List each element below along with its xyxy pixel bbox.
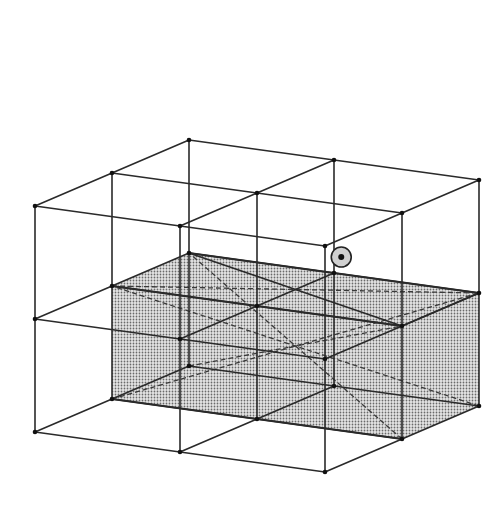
lattice-vertex	[187, 138, 192, 143]
circled-center-marker-icon	[331, 247, 351, 267]
lattice-figure	[0, 0, 503, 505]
lattice-edge	[257, 160, 334, 193]
lattice-edge	[189, 140, 334, 160]
lattice-vertex	[332, 384, 337, 389]
lattice-vertex	[323, 244, 328, 249]
lattice-vertex	[255, 191, 260, 196]
lattice-edge	[112, 173, 257, 193]
lattice-vertex	[323, 357, 328, 362]
lattice-edge	[180, 226, 325, 246]
lattice-edge	[35, 173, 112, 206]
lattice-vertex	[187, 251, 192, 256]
lattice-vertex	[400, 211, 405, 216]
diagram-canvas	[0, 0, 503, 505]
lattice-vertex	[187, 364, 192, 369]
lattice-edge	[35, 206, 180, 226]
lattice-vertex	[332, 271, 337, 276]
lattice-vertex	[33, 317, 38, 322]
lattice-vertex	[178, 224, 183, 229]
lattice-edge	[325, 213, 402, 246]
lattice-edge	[257, 193, 402, 213]
lattice-edge	[180, 452, 325, 472]
lattice-vertex	[323, 470, 328, 475]
lattice-edge	[180, 419, 257, 452]
lattice-edge	[334, 160, 479, 180]
lattice-vertex	[477, 178, 482, 183]
lattice-vertex	[255, 417, 260, 422]
lattice-edge	[35, 432, 180, 452]
lattice-edge	[325, 439, 402, 472]
marker-dot	[338, 254, 344, 260]
lattice-vertex	[178, 450, 183, 455]
lattice-edge	[35, 399, 112, 432]
lattice-edge	[402, 180, 479, 213]
lattice-vertex	[255, 304, 260, 309]
lattice-vertex	[400, 437, 405, 442]
lattice-vertex	[110, 397, 115, 402]
lattice-vertex	[33, 204, 38, 209]
lattice-vertex	[110, 284, 115, 289]
lattice-vertex	[400, 324, 405, 329]
lattice-edge	[180, 193, 257, 226]
lattice-vertex	[332, 158, 337, 163]
lattice-vertex	[477, 404, 482, 409]
lattice-vertex	[33, 430, 38, 435]
lattice-edge	[35, 286, 112, 319]
lattice-edge	[112, 140, 189, 173]
lattice-vertex	[178, 337, 183, 342]
lattice-vertex	[110, 171, 115, 176]
lattice-vertex	[477, 291, 482, 296]
